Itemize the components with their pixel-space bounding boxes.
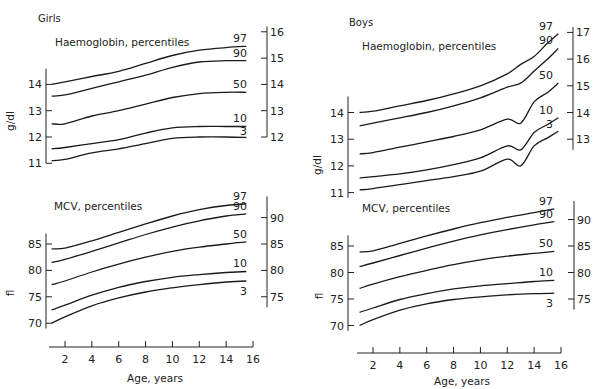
chart-title: MCV, percentiles	[362, 202, 450, 214]
panel-title: Girls	[38, 13, 61, 24]
percentile-label-3: 3	[240, 125, 247, 138]
right-tick-label: 75	[577, 293, 591, 306]
percentile-label-90: 90	[539, 34, 553, 47]
left-tick-label: 70	[330, 320, 344, 333]
percentile-label-97: 97	[539, 20, 553, 33]
right-tick-label: 15	[270, 52, 284, 65]
left-tick-label: 12	[28, 131, 42, 144]
right-tick-label: 17	[576, 26, 590, 39]
x-tick-label: 16	[246, 353, 260, 366]
percentile-label-97: 97	[539, 195, 553, 208]
left-tick-label: 85	[330, 240, 344, 253]
left-tick-label: 12	[330, 160, 344, 173]
percentile-label-50: 50	[539, 69, 553, 82]
x-tick-label: 6	[115, 353, 122, 366]
percentile-curve-10	[360, 280, 555, 312]
right-tick-label: 90	[577, 214, 591, 227]
left-tick-label: 11	[28, 157, 42, 170]
x-tick-label: 10	[165, 353, 179, 366]
girls-hb-chart: GirlsHaemoglobin, percentilesg/dl1112131…	[4, 13, 284, 170]
right-tick-label: 13	[576, 133, 590, 146]
panel-title: Boys	[349, 17, 373, 28]
right-tick-label: 14	[270, 78, 284, 91]
left-tick-label: 80	[330, 267, 344, 280]
left-tick-label: 14	[330, 107, 344, 120]
right-tick-label: 80	[577, 267, 591, 280]
percentile-label-10: 10	[539, 266, 553, 279]
percentile-curve-3	[52, 281, 247, 323]
percentile-label-3: 3	[240, 285, 247, 298]
x-tick-label: 2	[62, 353, 69, 366]
percentile-label-3: 3	[546, 118, 553, 131]
x-tick-label: 2	[370, 359, 377, 372]
percentile-curve-97	[52, 46, 247, 84]
x-tick-label: 4	[88, 353, 95, 366]
percentile-label-10: 10	[539, 104, 553, 117]
girls-mcv-chart: MCV, percentilesfl7075808575808590979050…	[4, 190, 284, 384]
y-axis-label: fl	[313, 293, 325, 300]
right-tick-label: 75	[270, 291, 284, 304]
x-tick-label: 14	[219, 353, 233, 366]
percentile-curve-3	[360, 293, 555, 325]
percentile-label-90: 90	[539, 208, 553, 221]
percentile-curve-50	[52, 92, 247, 124]
chart-title: Haemoglobin, percentiles	[55, 36, 189, 48]
percentile-curve-97	[360, 209, 555, 252]
right-tick-label: 85	[577, 240, 591, 253]
x-tick-label: 12	[500, 359, 514, 372]
x-tick-label: 8	[450, 359, 457, 372]
boys-mcv-chart: MCV, percentilesfl7075808575808590979050…	[313, 195, 591, 387]
percentile-curve-50	[360, 83, 559, 154]
percentile-charts: GirlsHaemoglobin, percentilesg/dl1112131…	[0, 0, 596, 389]
percentile-label-50: 50	[233, 228, 247, 241]
percentile-label-50: 50	[233, 78, 247, 91]
percentile-label-97: 97	[233, 32, 247, 45]
x-tick-label: 12	[192, 353, 206, 366]
y-axis-label: fl	[4, 290, 16, 297]
percentile-curve-10	[360, 118, 559, 178]
y-axis-label: g/dl	[311, 155, 323, 175]
percentile-curve-50	[52, 242, 247, 285]
left-tick-label: 75	[330, 293, 344, 306]
percentile-curve-3	[52, 137, 247, 161]
right-tick-label: 90	[270, 212, 284, 225]
right-tick-label: 80	[270, 264, 284, 277]
percentile-curve-10	[52, 126, 247, 148]
left-tick-label: 85	[28, 238, 42, 251]
x-tick-label: 16	[554, 359, 568, 372]
left-tick-label: 80	[28, 264, 42, 277]
right-tick-label: 12	[270, 131, 284, 144]
percentile-label-50: 50	[539, 237, 553, 250]
x-tick-label: 10	[473, 359, 487, 372]
y-axis-label: g/dl	[4, 111, 16, 131]
percentile-curve-10	[52, 272, 247, 311]
percentile-label-90: 90	[233, 47, 247, 60]
x-tick-label: 4	[396, 359, 403, 372]
chart-title: MCV, percentiles	[54, 200, 142, 212]
right-tick-label: 16	[270, 26, 284, 39]
right-tick-label: 15	[576, 80, 590, 93]
percentile-label-90: 90	[233, 200, 247, 213]
right-tick-label: 14	[576, 107, 590, 120]
left-tick-label: 13	[330, 133, 344, 146]
left-tick-label: 11	[330, 187, 344, 200]
percentile-curve-90	[52, 214, 247, 263]
x-tick-label: 6	[423, 359, 430, 372]
percentile-label-10: 10	[233, 257, 247, 270]
boys-hb-chart: BoysHaemoglobin, percentilesg/dl11121314…	[311, 17, 590, 200]
percentile-label-10: 10	[233, 112, 247, 125]
right-tick-label: 85	[270, 238, 284, 251]
x-axis-label: Age, years	[127, 372, 183, 384]
x-tick-label: 8	[142, 353, 149, 366]
percentile-label-3: 3	[546, 297, 553, 310]
right-tick-label: 16	[576, 53, 590, 66]
left-tick-label: 70	[28, 317, 42, 330]
chart-title: Haemoglobin, percentiles	[362, 40, 496, 52]
right-tick-label: 13	[270, 105, 284, 118]
x-axis-label: Age, years	[434, 375, 490, 387]
percentile-curve-50	[360, 251, 555, 288]
left-tick-label: 75	[28, 291, 42, 304]
x-tick-label: 14	[527, 359, 541, 372]
left-tick-label: 13	[28, 105, 42, 118]
left-tick-label: 14	[28, 78, 42, 91]
